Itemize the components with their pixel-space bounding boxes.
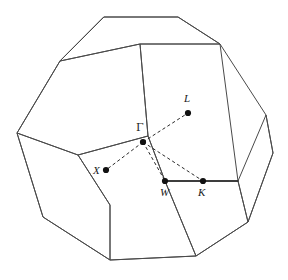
symmetry-path-group: [106, 113, 238, 181]
l-point-dot: [185, 110, 191, 116]
x-point-dot: [103, 167, 109, 173]
k-point-label: K: [197, 186, 206, 198]
symmetry-labels-group: Γ L X W K: [92, 92, 206, 198]
polyhedron-faces-group: [17, 17, 273, 260]
w-point-label: W: [160, 186, 170, 198]
bottom-center-face: [78, 136, 196, 260]
brillouin-zone-figure: Γ L X W K: [0, 0, 288, 280]
x-point-label: X: [92, 164, 101, 176]
l-point-label: L: [183, 92, 190, 104]
brillouin-zone-svg: Γ L X W K: [0, 0, 288, 280]
gamma-to-w: [143, 142, 165, 181]
gamma-point-dot: [140, 139, 146, 145]
k-point-dot: [200, 178, 206, 184]
top-hexagon-face: [60, 17, 220, 61]
right-lower-face: [165, 181, 248, 256]
gamma-point-label: Γ: [136, 121, 144, 134]
polyhedron-outline: [17, 17, 273, 260]
symmetry-dots-group: [103, 110, 206, 184]
gamma-to-l: [143, 113, 188, 142]
w-point-dot: [162, 178, 168, 184]
lower-left-face: [17, 133, 110, 260]
